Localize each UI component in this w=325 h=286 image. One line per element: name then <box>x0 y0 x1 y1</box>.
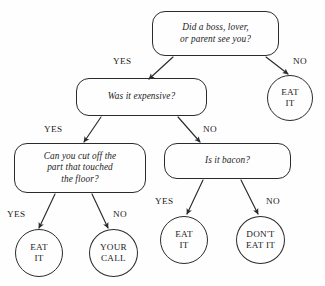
flow-edge-e-bacon-no <box>241 180 258 214</box>
flow-node-label: EAT IT <box>30 242 48 263</box>
flow-edge-label-lbl-expensive-no: NO <box>203 124 217 134</box>
flow-node-label: DON'T EAT IT <box>246 229 275 250</box>
flow-node-label: Was it expensive? <box>103 91 180 102</box>
flow-edge-label-lbl-cut-yes: YES <box>7 209 25 219</box>
flow-node-label: Is it bacon? <box>200 155 255 166</box>
flow-node-r-dont-eat-it: DON'T EAT IT <box>236 216 285 264</box>
flow-edge-label-lbl-bacon-no: NO <box>266 196 280 206</box>
flow-node-label: Did a boss, lover, or parent see you? <box>175 22 256 45</box>
flow-node-r-eat-it-right: EAT IT <box>160 216 208 264</box>
flow-edge-label-lbl-cut-no: NO <box>113 209 127 219</box>
flow-edge-e-cut-yes <box>39 194 55 228</box>
flow-edge-e-seen-yes <box>149 57 173 79</box>
flow-node-label: EAT IT <box>281 87 299 108</box>
flow-node-q-expensive: Was it expensive? <box>76 78 207 116</box>
flow-edge-e-cut-no <box>92 194 108 228</box>
flow-edge-e-bacon-yes <box>187 180 203 214</box>
flow-edge-e-expensive-yes <box>84 117 101 142</box>
flow-node-r-your-call: YOUR CALL <box>89 229 138 277</box>
flow-node-label: Can you cut off the part that touched th… <box>39 151 122 185</box>
flow-edge-e-expensive-no <box>178 117 200 142</box>
flow-edge-e-seen-no <box>266 57 288 74</box>
flowchart-canvas: Did a boss, lover, or parent see you?Was… <box>0 0 325 286</box>
flow-node-q-seen: Did a boss, lover, or parent see you? <box>152 11 279 56</box>
flow-node-label: YOUR CALL <box>100 242 127 263</box>
flow-node-label: EAT IT <box>175 229 193 250</box>
flow-edge-label-lbl-bacon-yes: YES <box>155 196 173 206</box>
flow-node-q-cut-off: Can you cut off the part that touched th… <box>14 143 146 193</box>
flow-node-r-eat-it-left: EAT IT <box>15 229 63 277</box>
flow-node-q-bacon: Is it bacon? <box>164 143 291 179</box>
flow-edge-label-lbl-seen-no: NO <box>293 56 307 66</box>
flow-edge-label-lbl-seen-yes: YES <box>113 56 131 66</box>
flow-node-r-eat-it-top: EAT IT <box>267 75 313 121</box>
flow-edge-label-lbl-expensive-yes: YES <box>44 124 62 134</box>
